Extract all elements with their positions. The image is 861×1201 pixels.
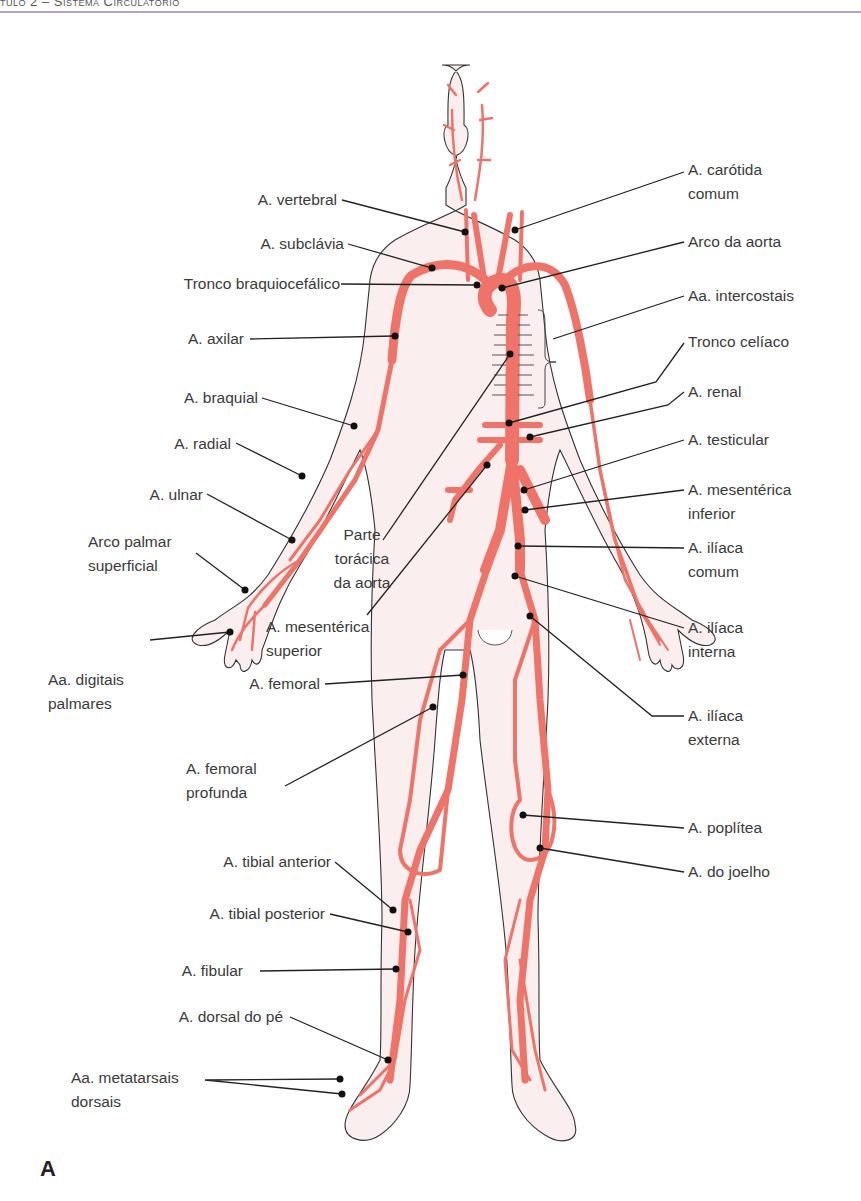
label-axilar: A. axilar — [188, 327, 244, 351]
label-tronco-braquiocefalico: Tronco braquiocefálico — [184, 272, 340, 296]
label-digitais-palmares: Aa. digitais palmares — [48, 668, 124, 716]
label-mesenterica-inferior: A. mesentérica inferior — [688, 478, 791, 526]
label-arco-palmar: Arco palmar superficial — [88, 530, 172, 578]
label-iliaca-comum: A. ilíaca comum — [688, 536, 743, 584]
label-vertebral: A. vertebral — [258, 188, 337, 212]
label-testicular: A. testicular — [688, 428, 769, 452]
label-tibial-anterior: A. tibial anterior — [223, 850, 331, 874]
label-poplitea: A. poplítea — [688, 816, 762, 840]
label-femoral-profunda: A. femoral profunda — [186, 757, 257, 805]
label-radial: A. radial — [174, 432, 231, 456]
label-intercostais: Aa. intercostais — [688, 284, 794, 308]
label-carotida-comum: A. carótida comum — [688, 158, 762, 206]
label-parte-toracica-aorta: Parte torácica da aorta — [322, 523, 402, 595]
label-renal: A. renal — [688, 380, 741, 404]
label-tronco-celiaco: Tronco celíaco — [688, 330, 789, 354]
label-mesenterica-superior: A. mesentérica superior — [266, 615, 369, 663]
label-arco-aorta: Arco da aorta — [688, 230, 781, 254]
label-fibular: A. fibular — [182, 959, 243, 983]
label-tibial-posterior: A. tibial posterior — [210, 902, 325, 926]
panel-letter: A — [40, 1156, 56, 1182]
label-do-joelho: A. do joelho — [688, 860, 770, 884]
label-iliaca-interna: A. ilíaca interna — [688, 616, 743, 664]
label-braquial: A. braquial — [184, 386, 258, 410]
label-subclavia: A. subclávia — [260, 232, 344, 256]
label-metatarsais-dorsais: Aa. metatarsais dorsais — [71, 1066, 179, 1114]
label-dorsal-pe: A. dorsal do pé — [179, 1005, 283, 1029]
label-femoral: A. femoral — [249, 672, 320, 696]
label-ulnar: A. ulnar — [150, 483, 203, 507]
label-iliaca-externa: A. ilíaca externa — [688, 704, 743, 752]
